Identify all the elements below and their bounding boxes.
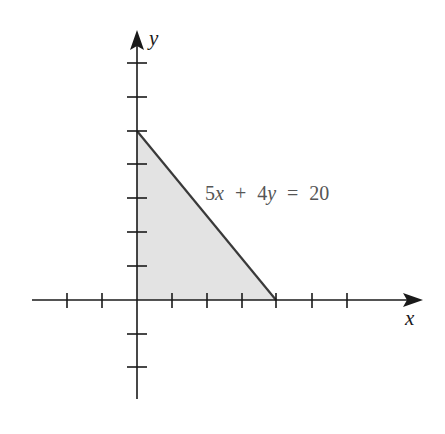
equation-equals: = — [287, 182, 298, 204]
graph-figure: y x 5x + 4y = 20 — [0, 0, 445, 434]
equation-label: 5x + 4y = 20 — [205, 182, 329, 205]
equation-var-x: x — [214, 182, 224, 204]
equation-coef-y: 4 — [257, 182, 267, 204]
y-axis-label: y — [147, 26, 159, 50]
equation-var-y: y — [265, 182, 276, 205]
equation-plus: + — [235, 182, 246, 204]
x-axis-label: x — [404, 306, 415, 330]
coordinate-plane: y x 5x + 4y = 20 — [0, 0, 445, 434]
equation-coef-x: 5 — [205, 182, 215, 204]
equation-rhs: 20 — [309, 182, 329, 204]
